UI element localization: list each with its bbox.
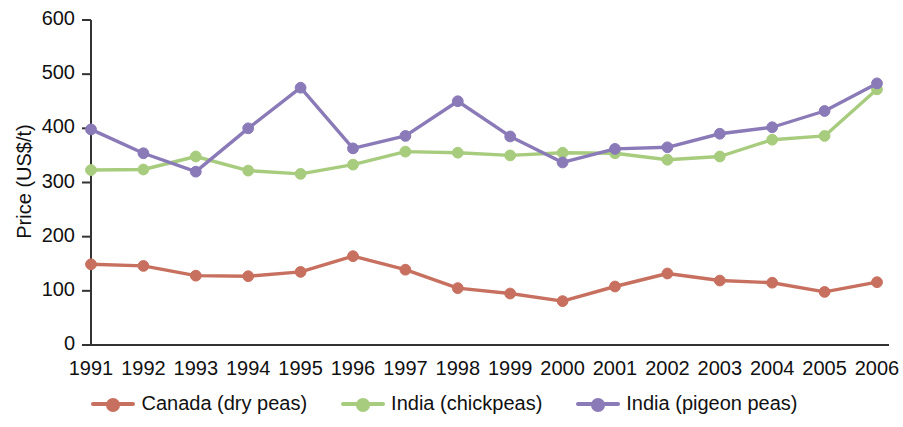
- data-point-marker: [872, 78, 883, 89]
- data-point-marker: [138, 164, 149, 175]
- data-point-marker: [452, 96, 463, 107]
- data-point-marker: [400, 146, 411, 157]
- legend-marker-icon: [341, 396, 385, 412]
- data-point-marker: [610, 281, 621, 292]
- x-tick-label: 2005: [795, 357, 855, 380]
- data-point-marker: [872, 277, 883, 288]
- data-point-marker: [400, 264, 411, 275]
- data-point-marker: [767, 134, 778, 145]
- legend-dot: [106, 398, 120, 412]
- x-tick-label: 1999: [480, 357, 540, 380]
- data-point-marker: [714, 275, 725, 286]
- y-tick-label: 200: [0, 224, 75, 247]
- data-point-marker: [767, 122, 778, 133]
- data-point-marker: [662, 142, 673, 153]
- data-point-marker: [662, 268, 673, 279]
- x-tick-label: 1994: [218, 357, 278, 380]
- data-point-marker: [190, 151, 201, 162]
- data-point-marker: [557, 157, 568, 168]
- data-point-marker: [452, 283, 463, 294]
- x-tick-label: 1996: [323, 357, 383, 380]
- series-layer: [86, 78, 883, 307]
- data-point-marker: [348, 251, 359, 262]
- data-point-marker: [819, 131, 830, 142]
- data-point-marker: [348, 143, 359, 154]
- data-point-marker: [400, 131, 411, 142]
- x-tick-label: 1992: [113, 357, 173, 380]
- data-point-marker: [557, 147, 568, 158]
- y-tick-label: 100: [0, 278, 75, 301]
- y-tick-label: 500: [0, 61, 75, 84]
- data-point-marker: [714, 151, 725, 162]
- data-point-marker: [714, 128, 725, 139]
- data-point-marker: [557, 296, 568, 307]
- data-point-marker: [243, 165, 254, 176]
- x-tick-label: 1998: [428, 357, 488, 380]
- axis-lines: [91, 20, 889, 345]
- chart-legend: Canada (dry peas)India (chickpeas)India …: [0, 392, 889, 415]
- data-point-marker: [819, 106, 830, 117]
- data-point-marker: [610, 144, 621, 155]
- data-point-marker: [348, 159, 359, 170]
- x-tick-label: 2006: [847, 357, 903, 380]
- legend-label: India (chickpeas): [391, 392, 542, 415]
- data-point-marker: [86, 165, 97, 176]
- data-point-marker: [295, 168, 306, 179]
- data-point-marker: [295, 82, 306, 93]
- y-tick-marks: [82, 20, 91, 345]
- legend-label: India (pigeon peas): [626, 392, 797, 415]
- x-tick-label: 1993: [166, 357, 226, 380]
- data-point-marker: [190, 166, 201, 177]
- data-point-marker: [767, 277, 778, 288]
- data-point-marker: [452, 147, 463, 158]
- data-point-marker: [243, 271, 254, 282]
- data-point-marker: [190, 270, 201, 281]
- x-tick-label: 1991: [61, 357, 121, 380]
- legend-marker-icon: [576, 396, 620, 412]
- legend-item[interactable]: India (chickpeas): [341, 392, 542, 415]
- data-point-marker: [86, 124, 97, 135]
- x-tick-label: 2004: [742, 357, 802, 380]
- data-point-marker: [295, 266, 306, 277]
- data-point-marker: [138, 148, 149, 159]
- y-tick-label: 0: [0, 332, 75, 355]
- x-tick-label: 2000: [533, 357, 593, 380]
- legend-dot: [356, 398, 370, 412]
- data-point-marker: [819, 287, 830, 298]
- data-point-marker: [243, 123, 254, 134]
- y-tick-label: 400: [0, 115, 75, 138]
- x-tick-label: 2002: [637, 357, 697, 380]
- x-tick-label: 2003: [690, 357, 750, 380]
- x-tick-label: 2001: [585, 357, 645, 380]
- legend-item[interactable]: India (pigeon peas): [576, 392, 797, 415]
- y-tick-label: 600: [0, 7, 75, 30]
- legend-label: Canada (dry peas): [141, 392, 307, 415]
- data-point-marker: [505, 150, 516, 161]
- legend-dot: [591, 398, 605, 412]
- legend-item[interactable]: Canada (dry peas): [91, 392, 307, 415]
- data-point-marker: [505, 288, 516, 299]
- data-point-marker: [662, 154, 673, 165]
- y-tick-label: 300: [0, 170, 75, 193]
- data-point-marker: [505, 131, 516, 142]
- data-point-marker: [138, 261, 149, 272]
- data-point-marker: [86, 259, 97, 270]
- x-tick-label: 1997: [375, 357, 435, 380]
- series-line: [91, 256, 877, 301]
- x-tick-label: 1995: [271, 357, 331, 380]
- legend-marker-icon: [91, 396, 135, 412]
